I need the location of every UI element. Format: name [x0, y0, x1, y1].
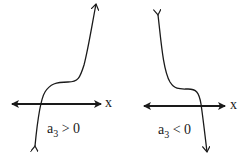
left-condition-label: a3 > 0: [47, 122, 80, 139]
right-axis-label: x: [230, 98, 237, 112]
right-condition-rel: < 0: [169, 122, 191, 137]
left-axis-label: x: [105, 96, 112, 110]
cubic-graphs-diagram: [0, 0, 246, 161]
left-condition-rel: > 0: [58, 121, 80, 136]
right-condition-label: a3 < 0: [158, 123, 191, 140]
